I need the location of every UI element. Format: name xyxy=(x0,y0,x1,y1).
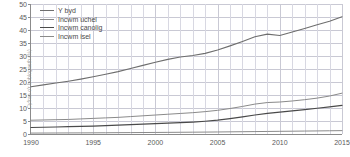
series-line xyxy=(31,131,342,133)
legend-swatch-line-icon xyxy=(40,36,54,37)
y-tick-label: 45 xyxy=(19,14,27,21)
legend-swatch-line-icon xyxy=(40,19,54,20)
legend-item[interactable]: Incwm canolig xyxy=(40,24,102,31)
x-tick-label: 2000 xyxy=(148,139,164,146)
y-tick-label: 40 xyxy=(19,27,27,34)
y-tick-label: 5 xyxy=(23,118,27,125)
legend-item-label: Y byd xyxy=(58,7,76,14)
legend-item[interactable]: Incwm isel xyxy=(40,33,102,40)
x-tick-label: 2015 xyxy=(334,139,350,146)
gridline-vertical-major xyxy=(342,4,343,134)
x-tick-label: 2010 xyxy=(272,139,288,146)
y-tick-mark xyxy=(28,134,31,135)
x-tick-label: 1990 xyxy=(23,139,39,146)
chart-legend: Y bydIncwm uchelIncwm canoligIncwm isel xyxy=(40,7,102,41)
legend-item-label: Incwm uchel xyxy=(58,16,97,23)
legend-item[interactable]: Incwm uchel xyxy=(40,16,102,23)
legend-item-label: Incwm isel xyxy=(58,33,91,40)
y-tick-label: 50 xyxy=(19,1,27,8)
legend-item[interactable]: Y byd xyxy=(40,7,102,14)
y-tick-label: 30 xyxy=(19,53,27,60)
legend-swatch-line-icon xyxy=(40,10,54,11)
series-line xyxy=(31,93,342,120)
x-tick-label: 2005 xyxy=(210,139,226,146)
y-tick-label: 0 xyxy=(23,131,27,138)
series-line xyxy=(31,105,342,127)
y-tick-label: 15 xyxy=(19,92,27,99)
y-tick-label: 35 xyxy=(19,40,27,47)
y-tick-label: 20 xyxy=(19,79,27,86)
y-tick-label: 10 xyxy=(19,105,27,112)
legend-item-label: Incwm canolig xyxy=(58,24,102,31)
y-tick-label: 25 xyxy=(19,66,27,73)
legend-swatch-line-icon xyxy=(40,27,54,28)
x-tick-label: 1995 xyxy=(85,139,101,146)
